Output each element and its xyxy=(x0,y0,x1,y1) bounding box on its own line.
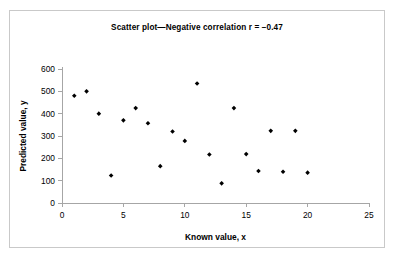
x-tick-label: 25 xyxy=(364,210,374,220)
x-tick-label: 5 xyxy=(121,210,126,220)
data-point-marker xyxy=(84,89,89,94)
data-point-marker xyxy=(305,170,310,175)
data-point-marker xyxy=(268,129,273,134)
data-point-marker xyxy=(109,173,114,178)
y-tick-label: 400 xyxy=(41,109,55,119)
y-axis-ticks: 0100200300400500600 xyxy=(41,64,62,208)
x-tick-label: 20 xyxy=(303,210,313,220)
data-point-marker xyxy=(256,169,261,174)
chart-frame: Scatter plot—Negative correlation r = −0… xyxy=(9,10,385,248)
data-point-marker xyxy=(293,129,298,134)
data-point-marker xyxy=(121,118,126,123)
y-axis-title: Predicted value, y xyxy=(18,100,28,172)
y-tick-label: 500 xyxy=(41,86,55,96)
x-axis-title: Known value, x xyxy=(185,232,246,242)
data-point-marker xyxy=(281,169,286,174)
x-tick-label: 15 xyxy=(242,210,252,220)
data-point-marker xyxy=(72,94,77,99)
data-point-marker xyxy=(207,152,212,157)
data-point-marker xyxy=(146,121,151,126)
y-tick-label: 600 xyxy=(41,64,55,74)
data-point-marker xyxy=(244,152,249,157)
y-tick-label: 200 xyxy=(41,153,55,163)
data-point-marker xyxy=(97,111,102,116)
data-point-marker xyxy=(195,81,200,86)
data-point-marker xyxy=(232,106,237,111)
y-tick-label: 300 xyxy=(41,131,55,141)
data-point-marker xyxy=(158,164,163,169)
x-axis-ticks: 0510152025 xyxy=(60,203,374,220)
x-tick-label: 0 xyxy=(60,210,65,220)
data-points xyxy=(72,81,310,185)
x-tick-label: 10 xyxy=(180,210,190,220)
data-point-marker xyxy=(219,181,224,186)
data-point-marker xyxy=(183,139,188,144)
y-tick-label: 0 xyxy=(50,198,55,208)
scatter-plot: 0100200300400500600 0510152025 Known val… xyxy=(10,11,386,249)
data-point-marker xyxy=(133,106,138,111)
y-tick-label: 100 xyxy=(41,176,55,186)
figure-canvas: Scatter plot—Negative correlation r = −0… xyxy=(0,0,394,259)
data-point-marker xyxy=(170,129,175,134)
